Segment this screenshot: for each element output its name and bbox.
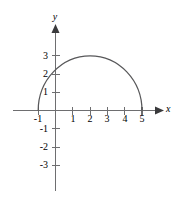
semicircle-curve xyxy=(38,56,142,111)
y-tick-label--2: -2 xyxy=(28,141,48,152)
y-axis-arrow-icon xyxy=(52,24,60,33)
y-tick-label-3: 3 xyxy=(34,50,48,61)
x-tick-label-1: 1 xyxy=(65,113,81,124)
y-tick-label--1: -1 xyxy=(28,123,48,134)
coordinate-plane-svg xyxy=(0,0,179,205)
x-axis-label: x xyxy=(166,103,178,114)
x-axis-arrow-icon xyxy=(155,107,164,115)
graph-figure: -1 1 2 3 4 5 3 2 1 -1 -2 -3 y x xyxy=(0,0,179,205)
y-tick-label--3: -3 xyxy=(28,159,48,170)
y-tick-label-2: 2 xyxy=(34,68,48,79)
x-tick-label-3: 3 xyxy=(99,113,115,124)
y-axis-label: y xyxy=(48,11,62,22)
y-tick-label-1: 1 xyxy=(34,86,48,97)
x-tick-label-5: 5 xyxy=(134,113,150,124)
x-tick-label-4: 4 xyxy=(117,113,133,124)
x-tick-label-2: 2 xyxy=(82,113,98,124)
